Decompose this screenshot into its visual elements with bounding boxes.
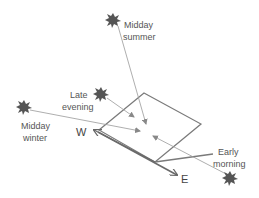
midday-winter-label-2: winter bbox=[22, 133, 47, 143]
west-label: W bbox=[76, 126, 87, 138]
midday-summer-label-1: Midday bbox=[124, 20, 154, 30]
east-label: E bbox=[181, 173, 188, 185]
midday-summer-label-2: summer bbox=[123, 32, 156, 42]
early-morning-label-1: Early bbox=[218, 147, 239, 157]
late-evening-label-2: evening bbox=[62, 102, 94, 112]
late-evening-label-1: Late bbox=[70, 90, 88, 100]
solar-diagram: Midday summer Late evening Midday winter… bbox=[0, 0, 259, 198]
sun-icon bbox=[93, 87, 109, 102]
late-evening-ray bbox=[107, 98, 134, 117]
early-morning-label-2: morning bbox=[213, 159, 246, 169]
midday-winter-label-1: Midday bbox=[21, 121, 51, 131]
sun-icon bbox=[105, 13, 121, 28]
early-morning-ray bbox=[153, 136, 228, 175]
sun-icon bbox=[16, 100, 32, 115]
